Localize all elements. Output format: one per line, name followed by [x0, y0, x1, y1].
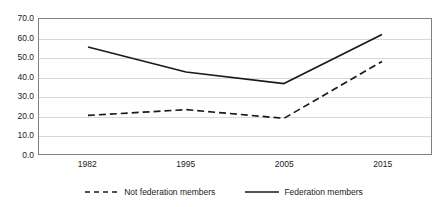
plot-area — [38, 18, 432, 155]
dashed-line-icon — [85, 188, 119, 196]
chart-legend: Not federation membersFederation members — [0, 183, 448, 201]
y-tick-label: 30.0 — [0, 92, 34, 101]
y-tick-label: 60.0 — [0, 33, 34, 42]
x-tick-label: 2005 — [275, 160, 294, 169]
y-tick-label: 50.0 — [0, 53, 34, 62]
x-tick-label: 1982 — [78, 160, 97, 169]
x-axis: 1982199520052015 — [38, 160, 432, 174]
x-tick-label: 2015 — [373, 160, 392, 169]
y-tick-label: 70.0 — [0, 14, 34, 23]
series-line — [88, 34, 382, 83]
legend-entry[interactable]: Not federation members — [85, 188, 215, 197]
series-layer — [39, 19, 431, 154]
y-tick-label: 40.0 — [0, 72, 34, 81]
legend-entry[interactable]: Federation members — [245, 188, 362, 197]
legend-label: Not federation members — [124, 188, 215, 197]
x-tick-label: 1995 — [176, 160, 195, 169]
y-tick-label: 10.0 — [0, 131, 34, 140]
y-tick-label: 20.0 — [0, 112, 34, 121]
legend-label: Federation members — [284, 188, 362, 197]
line-chart: 0.010.020.030.040.050.060.070.0 19821995… — [0, 0, 448, 207]
y-axis: 0.010.020.030.040.050.060.070.0 — [0, 18, 34, 155]
solid-line-icon — [245, 188, 279, 196]
series-line — [88, 61, 382, 118]
y-tick-label: 0.0 — [0, 151, 34, 160]
